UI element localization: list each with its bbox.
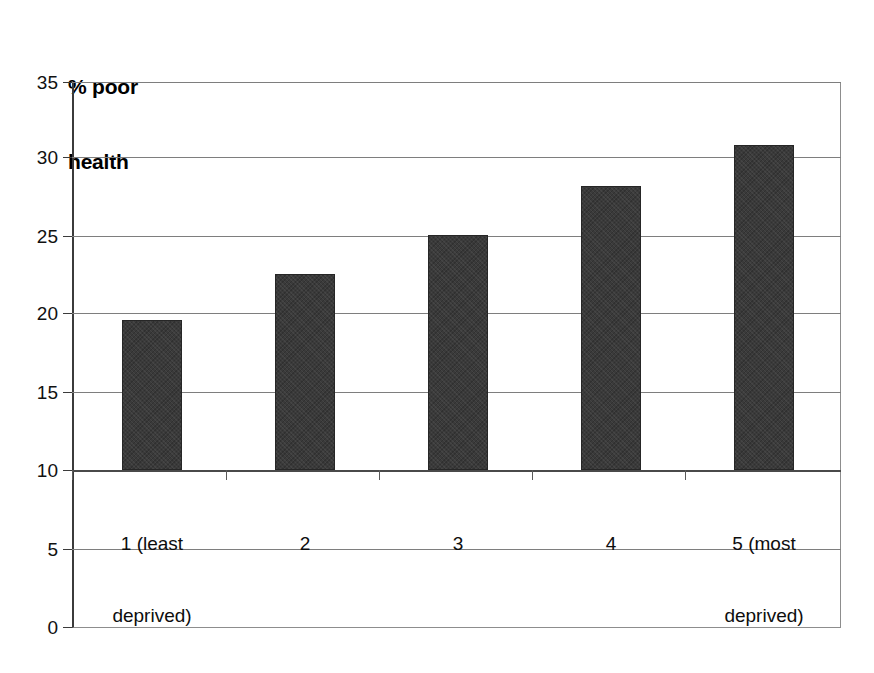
category-label-5-line-2: deprived): [679, 604, 849, 628]
category-label-5: 5 (most deprived): [679, 484, 849, 673]
category-axis-line: [72, 470, 841, 472]
gridline-35: [72, 82, 841, 83]
category-label-2-line-1: 2: [220, 532, 390, 556]
category-label-3: 3: [373, 484, 543, 604]
category-label-4-line-1: 4: [526, 532, 696, 556]
ytick-mark-25: [63, 236, 72, 237]
bar-chart: % poor health 35 30 25 20 15 10 5 0: [0, 0, 874, 673]
ytick-label-30: 30: [37, 148, 58, 167]
category-tick-4: [685, 470, 686, 480]
ytick-label-35: 35: [37, 73, 58, 92]
ytick-mark-15: [63, 392, 72, 393]
category-label-5-line-1: 5 (most: [679, 532, 849, 556]
category-label-1-line-1: 1 (least: [67, 532, 237, 556]
category-label-1: 1 (least deprived): [67, 484, 237, 673]
bar-category-2: [275, 274, 335, 470]
category-label-2: 2: [220, 484, 390, 604]
category-label-4: 4: [526, 484, 696, 604]
category-tick-2: [379, 470, 380, 480]
bar-category-3: [428, 235, 488, 470]
category-label-1-line-2: deprived): [67, 604, 237, 628]
bar-category-1: [122, 320, 182, 470]
gridline-30: [72, 157, 841, 158]
category-tick-3: [532, 470, 533, 480]
ytick-label-15: 15: [37, 383, 58, 402]
ytick-label-5: 5: [47, 540, 58, 559]
bar-category-4: [581, 186, 641, 470]
plot-area: 35 30 25 20 15 10 5 0: [72, 82, 841, 628]
bar-category-5: [734, 145, 794, 470]
ytick-label-0: 0: [47, 618, 58, 637]
ytick-label-20: 20: [37, 304, 58, 323]
category-label-3-line-1: 3: [373, 532, 543, 556]
ytick-mark-10: [63, 470, 72, 471]
category-tick-0: [72, 470, 73, 480]
ytick-mark-20: [63, 313, 72, 314]
ytick-label-10: 10: [37, 461, 58, 480]
ytick-mark-30: [63, 157, 72, 158]
ytick-label-25: 25: [37, 227, 58, 246]
category-tick-1: [226, 470, 227, 480]
ytick-mark-35: [63, 82, 72, 83]
